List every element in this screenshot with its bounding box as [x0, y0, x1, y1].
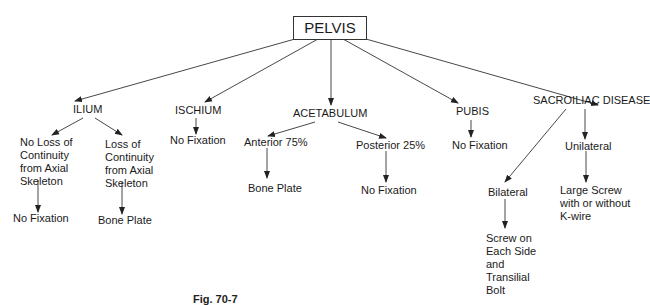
node-ilium-loss: Loss of Continuity from Axial Skeleton	[105, 138, 175, 190]
node-ilium: ILIUM	[73, 103, 102, 116]
node-sacroiliac-bilateral: Bilateral	[488, 186, 528, 199]
node-unilateral-result: Large Screw with or without K-wire	[560, 184, 648, 223]
node-pelvis-label: PELVIS	[304, 19, 355, 36]
text-line: Skeleton	[20, 175, 90, 188]
node-acetabulum-posterior: Posterior 25%	[356, 139, 425, 152]
node-ischium: ISCHIUM	[175, 104, 221, 117]
node-ilium-no-loss: No Loss of Continuity from Axial Skeleto…	[20, 136, 90, 188]
text-line: from Axial	[105, 164, 175, 177]
node-pelvis: PELVIS	[293, 16, 367, 40]
node-sacroiliac-disease: SACROILIAC DISEASE	[533, 94, 650, 107]
node-bilateral-result: Screw on Each Side and Transilial Bolt	[486, 232, 556, 297]
node-sacroiliac-unilateral: Unilateral	[565, 140, 611, 153]
text-line: Continuity	[105, 151, 175, 164]
node-ischium-result: No Fixation	[170, 134, 226, 147]
node-anterior-result: Bone Plate	[248, 182, 302, 195]
text-line: Bolt	[486, 284, 556, 297]
node-acetabulum: ACETABULUM	[293, 107, 367, 120]
text-line: No Loss of	[20, 136, 90, 149]
node-ilium-loss-result: Bone Plate	[98, 214, 152, 227]
figure-caption: Fig. 70-7	[193, 293, 238, 305]
node-acetabulum-anterior: Anterior 75%	[244, 136, 308, 149]
text-line: Loss of	[105, 138, 175, 151]
text-line: K-wire	[560, 210, 648, 223]
text-line: Large Screw	[560, 184, 648, 197]
text-line: Screw on	[486, 232, 556, 245]
text-line: Continuity	[20, 149, 90, 162]
node-ilium-no-loss-result: No Fixation	[13, 212, 69, 225]
text-line: Each Side	[486, 245, 556, 258]
text-line: from Axial	[20, 162, 90, 175]
text-line: with or without	[560, 197, 648, 210]
text-line: Skeleton	[105, 177, 175, 190]
node-posterior-result: No Fixation	[361, 184, 417, 197]
node-pubis-result: No Fixation	[452, 139, 508, 152]
text-line: Transilial	[486, 271, 556, 284]
node-pubis: PUBIS	[456, 105, 489, 118]
text-line: and	[486, 258, 556, 271]
